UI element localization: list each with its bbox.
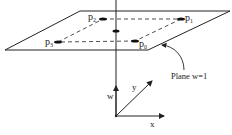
label-p1: p1 [185,12,193,24]
point-center [113,29,120,32]
origin [115,115,117,117]
plane-label: Plane w=1 [171,71,207,81]
w-axis-label: w [107,91,114,101]
label-p0: p0 [139,38,147,50]
points [54,17,185,43]
label-p3: p3 [45,36,53,48]
point-p2 [99,17,107,20]
homogeneous-plane-diagram: p2 p1 p3 p0 Plane w=1 w y x [0,0,232,135]
dashed-square [58,19,181,42]
y-axis-label: y [132,82,137,92]
point-p3 [54,40,62,43]
label-p2: p2 [88,11,96,23]
point-p0 [131,39,139,42]
plane-pointer-arrow [162,45,184,70]
point-p1 [177,17,185,20]
x-axis-label: x [150,119,155,129]
